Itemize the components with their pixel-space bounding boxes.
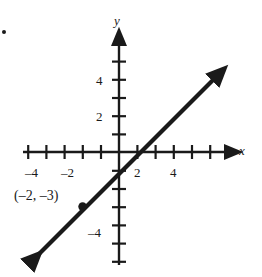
plotted-point-marker	[78, 202, 87, 211]
x-tick-label-2: 2	[134, 166, 141, 179]
x-tick-label-neg2: –2	[61, 166, 74, 179]
x-axis	[23, 145, 226, 159]
y-tick-label-4: 4	[96, 74, 103, 87]
x-tick-label-4: 4	[170, 166, 177, 179]
coordinate-plane-graph	[0, 0, 262, 277]
plotted-line	[29, 79, 214, 264]
y-tick-label-neg4: –4	[88, 226, 101, 239]
x-tick-label-neg4: –4	[25, 166, 38, 179]
figure-container: x y –4 –2 2 4 4 2 –4 (–2, –3)	[0, 0, 262, 277]
y-tick-label-2: 2	[96, 110, 103, 123]
x-axis-label: x	[239, 144, 245, 157]
y-axis	[112, 44, 126, 265]
point-annotation-label: (–2, –3)	[14, 189, 58, 203]
y-axis-label: y	[114, 14, 120, 27]
